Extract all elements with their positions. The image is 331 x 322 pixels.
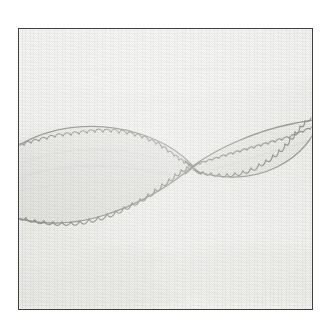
fabric-photograph-image <box>19 29 312 309</box>
photo-page <box>0 0 331 322</box>
photograph-frame <box>18 28 313 310</box>
fabric-weave-texture <box>19 29 312 309</box>
image-caption <box>0 0 1 1</box>
